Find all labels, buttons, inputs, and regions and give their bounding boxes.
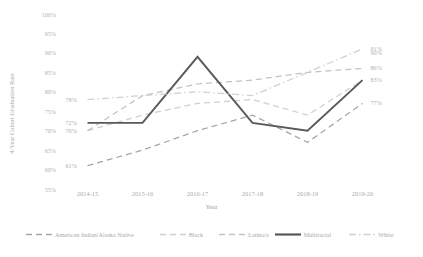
legend-swatch-icon xyxy=(26,231,52,238)
series-line-american-indian-alaska-native xyxy=(88,103,363,165)
data-label: 86% xyxy=(371,64,382,71)
y-axis-tick: 75% xyxy=(22,108,56,115)
x-axis-title: Year xyxy=(0,203,423,210)
legend-swatch-icon xyxy=(349,231,375,238)
legend-item[interactable]: Black xyxy=(160,231,203,238)
legend-label: White xyxy=(378,231,393,238)
y-axis-tick: 70% xyxy=(22,127,56,134)
legend-label: Multiracial xyxy=(304,231,332,238)
legend-item[interactable]: White xyxy=(349,231,393,238)
legend-swatch-icon xyxy=(275,231,301,238)
x-axis-tick: 2018-19 xyxy=(285,190,331,197)
line-chart: 4-Year Cohort Graduation Rate 55%60%65%7… xyxy=(0,0,423,257)
data-label: 78% xyxy=(66,96,77,103)
legend-swatch-icon xyxy=(219,231,245,238)
x-axis-tick: 2015-16 xyxy=(120,190,166,197)
y-axis-tick: 95% xyxy=(22,30,56,37)
y-axis-tick: 90% xyxy=(22,49,56,56)
legend-label: American Indian/Alaska Native xyxy=(55,231,134,238)
y-axis-tick: 65% xyxy=(22,147,56,154)
y-axis-title-label: 4-Year Cohort Graduation Rate xyxy=(8,73,15,153)
legend-item[interactable]: American Indian/Alaska Native xyxy=(26,231,134,238)
data-label: 70% xyxy=(66,127,77,134)
series-line-white xyxy=(88,49,363,100)
y-axis-tick: 80% xyxy=(22,88,56,95)
x-axis-title-label: Year xyxy=(205,203,217,210)
y-axis-title: 4-Year Cohort Graduation Rate xyxy=(4,38,18,188)
y-axis-tick: 100% xyxy=(22,11,56,18)
x-axis-tick: 2016-17 xyxy=(175,190,221,197)
y-axis-tick: 85% xyxy=(22,69,56,76)
legend-label: Black xyxy=(189,231,203,238)
series-lines xyxy=(60,14,390,189)
legend-swatch-icon xyxy=(160,231,186,238)
x-axis-tick: 2014-15 xyxy=(65,190,111,197)
data-label: 90% xyxy=(371,49,382,56)
data-label: 72% xyxy=(66,119,77,126)
legend-label: Latino/a xyxy=(248,231,269,238)
data-label: 61% xyxy=(66,162,77,169)
data-label: 83% xyxy=(371,76,382,83)
data-label: 77% xyxy=(371,99,382,106)
chart-legend: American Indian/Alaska NativeBlackLatino… xyxy=(0,224,423,244)
y-axis-tick: 55% xyxy=(22,186,56,193)
plot-area xyxy=(60,14,390,189)
legend-item[interactable]: Latino/a xyxy=(219,231,269,238)
y-axis-tick: 60% xyxy=(22,166,56,173)
series-line-latino-a xyxy=(88,68,363,130)
legend-item[interactable]: Multiracial xyxy=(275,231,332,238)
x-axis-tick: 2017-18 xyxy=(230,190,276,197)
x-axis-tick: 2019-20 xyxy=(340,190,386,197)
